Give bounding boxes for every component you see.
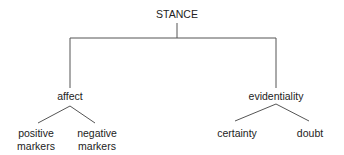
node-certainty: certainty (217, 127, 257, 140)
node-negative-markers-line2: markers (77, 140, 117, 153)
affect-left-branch (38, 106, 70, 123)
evidentiality-right-branch (276, 104, 309, 121)
node-evidentiality: evidentiality (249, 90, 304, 103)
node-positive-markers-line1: positive (17, 127, 55, 140)
affect-right-branch (70, 106, 95, 123)
evidentiality-left-branch (235, 104, 276, 121)
node-doubt: doubt (297, 127, 323, 140)
node-positive-markers: positive markers (17, 127, 55, 153)
node-negative-markers-line1: negative (77, 127, 117, 140)
node-affect: affect (57, 90, 83, 103)
node-stance: STANCE (156, 8, 198, 21)
node-positive-markers-line2: markers (17, 140, 55, 153)
node-negative-markers: negative markers (77, 127, 117, 153)
